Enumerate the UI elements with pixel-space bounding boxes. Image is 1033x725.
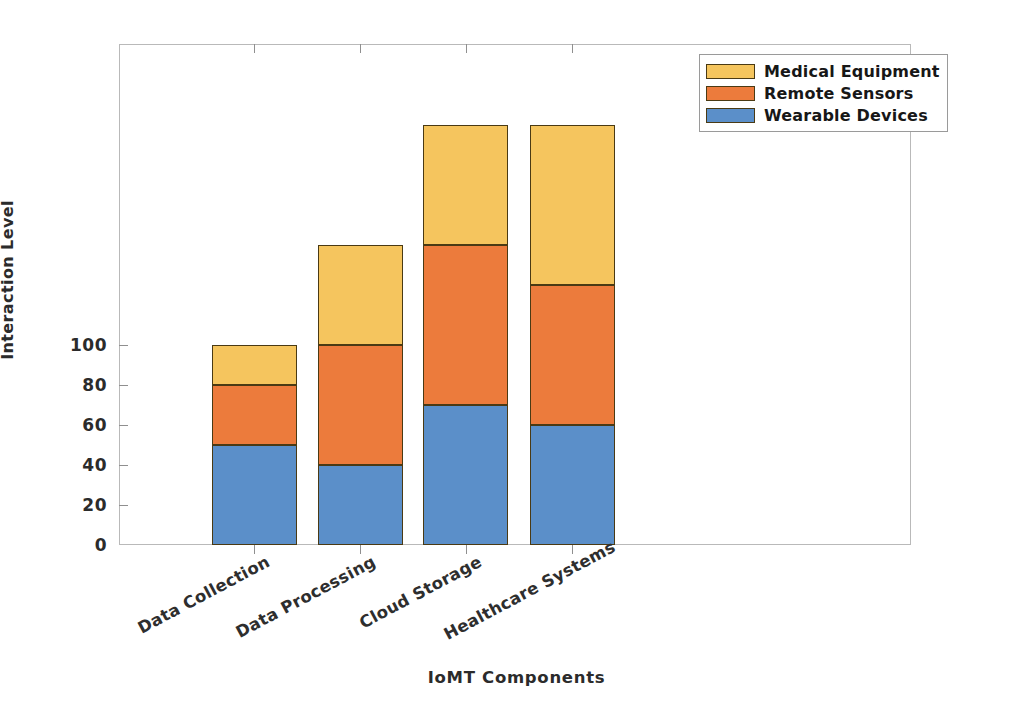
legend-label: Remote Sensors [764,84,913,103]
bar-stack [530,0,615,545]
bar-segment [212,345,297,385]
bar-segment [318,245,403,345]
legend-label: Wearable Devices [764,106,928,125]
y-tick-label: 100 [55,335,107,355]
x-tick-mark [254,545,255,554]
y-axis-title: Interaction Level [0,150,17,410]
legend-item: Medical Equipment [706,60,940,82]
y-tick-label: 80 [55,375,107,395]
y-tick-label: 40 [55,455,107,475]
y-tick-mark [119,345,128,346]
chart-legend: Medical EquipmentRemote SensorsWearable … [699,54,948,132]
bar-segment [423,125,508,245]
bar-segment [423,405,508,545]
y-tick-label: 20 [55,495,107,515]
y-tick-mark [119,385,128,386]
y-tick-label: 0 [55,535,107,555]
legend-item: Wearable Devices [706,104,940,126]
bar-segment [423,245,508,405]
y-tick-mark [119,465,128,466]
legend-swatch-icon [706,108,755,123]
y-tick-label: 60 [55,415,107,435]
bar-segment [212,445,297,545]
bar-segment [530,285,615,425]
legend-item: Remote Sensors [706,82,940,104]
y-tick-mark [119,425,128,426]
bar-segment [530,425,615,545]
x-tick-mark [360,545,361,554]
bar-stack [318,0,403,545]
bar-segment [318,465,403,545]
y-tick-mark [119,505,128,506]
x-axis-title: IoMT Components [0,668,1033,687]
bar-segment [530,125,615,285]
stacked-bar-chart: Interaction Level 020406080100 Data Coll… [0,0,1033,725]
legend-swatch-icon [706,64,755,79]
bar-segment [318,345,403,465]
legend-label: Medical Equipment [764,62,940,81]
bar-segment [212,385,297,445]
bar-stack [423,0,508,545]
x-tick-mark [466,545,467,554]
x-tick-mark [572,545,573,554]
legend-swatch-icon [706,86,755,101]
bar-stack [212,0,297,545]
